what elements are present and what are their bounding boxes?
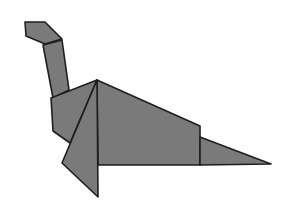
figure-canvas: origami dinosaur	[0, 0, 283, 217]
tail-piece	[200, 137, 271, 165]
origami-dinosaur-illustration	[0, 0, 283, 217]
neck-piece	[43, 40, 69, 98]
body-piece	[97, 80, 200, 165]
